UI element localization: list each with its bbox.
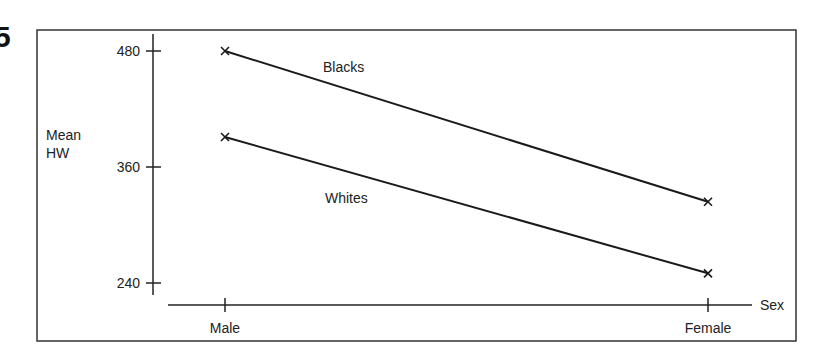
series-blacks: Blacks	[221, 47, 712, 206]
chart-frame	[37, 30, 796, 341]
series-line	[225, 137, 708, 273]
y-axis-label-line1: Mean	[46, 127, 81, 143]
line-chart: 240360480MaleFemale BlacksWhites Mean HW…	[0, 0, 829, 356]
series-label: Whites	[325, 190, 368, 206]
y-tick-label: 480	[117, 43, 141, 59]
y-tick-label: 240	[117, 275, 141, 291]
y-tick-label: 360	[117, 159, 141, 175]
series-whites: Whites	[221, 133, 712, 277]
x-axis-label: Sex	[760, 297, 784, 313]
x-tick-label-male: Male	[210, 320, 241, 336]
series-group: BlacksWhites	[221, 47, 712, 277]
series-line	[225, 51, 708, 202]
y-axis-label-line2: HW	[46, 145, 70, 161]
x-tick-label-female: Female	[685, 320, 732, 336]
series-label: Blacks	[323, 59, 364, 75]
